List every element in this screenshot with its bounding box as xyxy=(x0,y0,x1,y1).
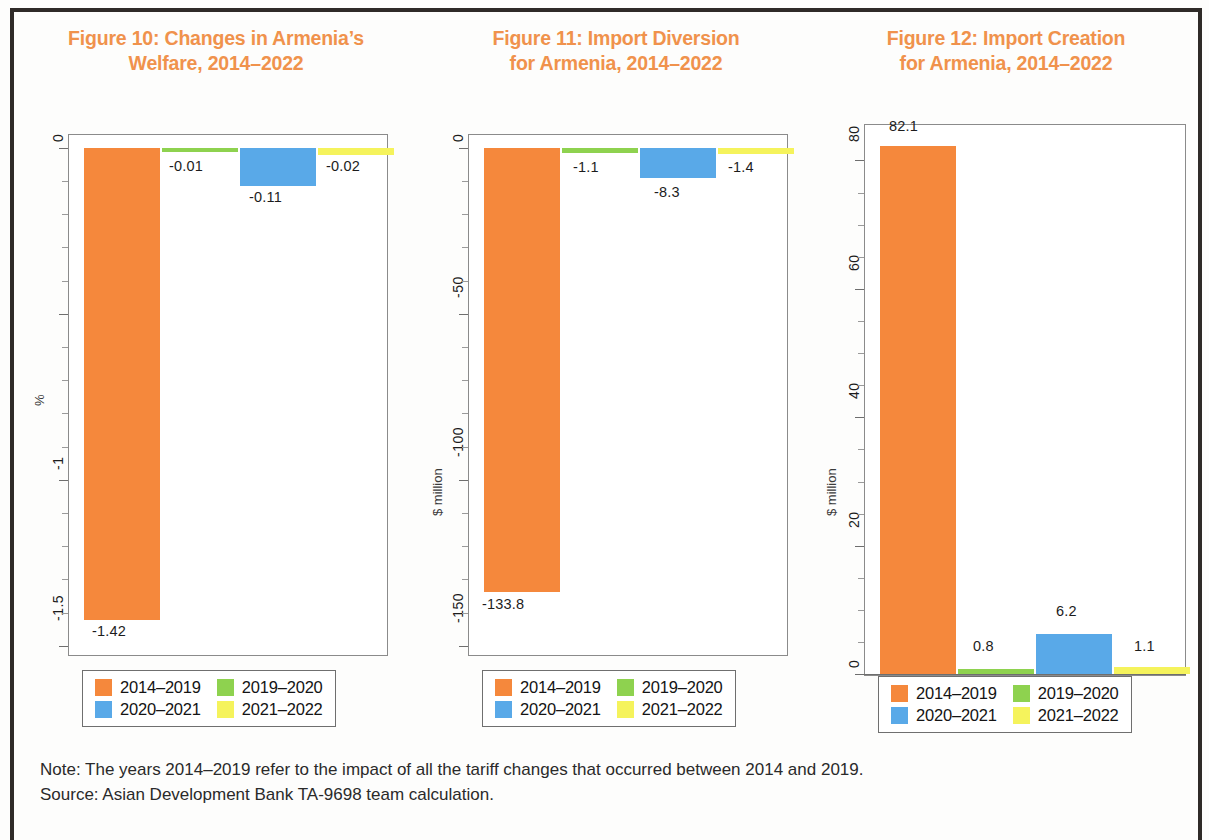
figure-page: Figure 10: Changes in Armenia’s Welfare,… xyxy=(0,0,1209,840)
figure-10-ytick-label-0: 0 xyxy=(50,134,66,142)
figure-panel-10: Figure 10: Changes in Armenia’s Welfare,… xyxy=(16,14,416,734)
legend-item-2019-2020: 2019–2020 xyxy=(1013,684,1119,703)
legend-swatch-icon-2021-2022 xyxy=(217,701,234,718)
legend-item-2014-2019: 2014–2019 xyxy=(95,678,201,697)
figure-11-ytick-minor xyxy=(462,214,468,215)
bar-2020-2021 xyxy=(240,148,316,186)
bar-2020-2021 xyxy=(1036,634,1112,674)
bar-value-2020-2021: -0.11 xyxy=(249,189,282,205)
figure-11-ytick-minor xyxy=(462,613,468,614)
legend-label-2014-2019: 2014–2019 xyxy=(916,684,997,703)
figure-12-ytick-minor xyxy=(858,578,864,579)
figure-10-ytick-minor xyxy=(62,380,68,381)
figure-11-ytick-minor xyxy=(462,247,468,248)
figure-12-ytick-minor xyxy=(858,321,864,322)
legend-swatch-icon-2020-2021 xyxy=(95,701,112,718)
bar-2019-2020 xyxy=(562,148,638,153)
legend-label-2014-2019: 2014–2019 xyxy=(520,678,601,697)
bar-2014-2019 xyxy=(84,148,160,620)
legend-item-2020-2021: 2020–2021 xyxy=(95,700,201,719)
figure-12-y-axis-title: $ million xyxy=(824,468,839,516)
bar-value-2014-2019: -133.8 xyxy=(482,596,524,612)
figure-11-y-axis-title: $ million xyxy=(430,468,445,516)
figure-12-ytick-minor xyxy=(858,225,864,226)
legend-item-2019-2020: 2019–2020 xyxy=(617,678,723,697)
bar-2021-2022 xyxy=(1114,667,1190,674)
legend-label-2019-2020: 2019–2020 xyxy=(1038,684,1119,703)
bar-value-2021-2022: -1.4 xyxy=(728,159,754,175)
figure-12-ytick-minor xyxy=(858,257,864,258)
figure-10-ytick-minor xyxy=(62,214,68,215)
figure-12-ytick-3 xyxy=(855,289,864,290)
figure-10-ytick-minor xyxy=(62,413,68,414)
legend-label-2021-2022: 2021–2022 xyxy=(1038,706,1119,725)
figure-10-ytick-1 xyxy=(59,314,68,315)
legend-label-2020-2021: 2020–2021 xyxy=(916,706,997,725)
legend-swatch-icon-2021-2022 xyxy=(1013,707,1030,724)
figure-10-ytick-0 xyxy=(59,148,68,149)
legend-swatch-icon-2019-2020 xyxy=(217,679,234,696)
legend-item-2021-2022: 2021–2022 xyxy=(217,700,323,719)
figure-11-ytick-label-1: -50 xyxy=(450,276,466,298)
figure-10-ytick-minor xyxy=(62,247,68,248)
legend-swatch-icon-2014-2019 xyxy=(95,679,112,696)
figure-source: Source: Asian Development Bank TA-9698 t… xyxy=(40,782,1160,807)
figure-10-y-axis-title: % xyxy=(32,394,47,406)
figure-11-ytick-minor xyxy=(462,380,468,381)
bar-2014-2019 xyxy=(484,148,560,592)
figure-11-legend: 2014–2019 2019–2020 2020–2021 2021–2022 xyxy=(482,670,736,727)
figure-panel-11: Figure 11: Import Diversion for Armenia,… xyxy=(416,14,816,734)
figure-10-ytick-2 xyxy=(59,480,68,481)
figure-12-ytick-minor xyxy=(858,385,864,386)
bar-value-2020-2021: -8.3 xyxy=(654,184,680,200)
legend-swatch-icon-2019-2020 xyxy=(1013,685,1030,702)
figure-note: Note: The years 2014–2019 refer to the i… xyxy=(40,757,1160,782)
figure-10-ytick-label-2: -1 xyxy=(50,457,66,470)
legend-label-2019-2020: 2019–2020 xyxy=(642,678,723,697)
figure-10-ytick-minor xyxy=(62,181,68,182)
bar-2019-2020 xyxy=(958,669,1034,674)
page-frame-top-rule xyxy=(10,8,1202,12)
figure-panels: Figure 10: Changes in Armenia’s Welfare,… xyxy=(16,14,1196,734)
bar-2020-2021 xyxy=(640,148,716,178)
figure-12-ytick-1 xyxy=(855,546,864,547)
legend-item-2020-2021: 2020–2021 xyxy=(495,700,601,719)
figure-12-title-line-2: for Armenia, 2014–2022 xyxy=(822,51,1190,76)
figure-12-ytick-minor xyxy=(858,193,864,194)
figure-12-ytick-minor xyxy=(858,449,864,450)
figure-10-legend: 2014–2019 2019–2020 2020–2021 2021–2022 xyxy=(82,670,336,727)
figure-12-ytick-minor xyxy=(858,610,864,611)
figure-10-ytick-minor xyxy=(62,347,68,348)
bar-2021-2022 xyxy=(318,148,394,155)
figure-11-ytick-3 xyxy=(459,646,468,647)
figure-12-ytick-4 xyxy=(855,160,864,161)
figure-10-ytick-minor xyxy=(62,513,68,514)
bar-2021-2022 xyxy=(718,148,794,154)
figure-panel-12: Figure 12: Import Creation for Armenia, … xyxy=(816,14,1196,734)
legend-label-2014-2019: 2014–2019 xyxy=(120,678,201,697)
figure-10-title-line-1: Figure 10: Changes in Armenia’s xyxy=(34,26,398,51)
bar-2019-2020 xyxy=(162,148,238,152)
bar-value-2019-2020: 0.8 xyxy=(973,638,994,654)
figure-10-ytick-label-3: -1.5 xyxy=(50,595,66,621)
page-frame-right-rule xyxy=(1198,8,1202,840)
figure-11-ytick-0 xyxy=(459,148,468,149)
figure-12-title: Figure 12: Import Creation for Armenia, … xyxy=(816,14,1196,76)
figure-11-ytick-1 xyxy=(459,314,468,315)
legend-item-2019-2020: 2019–2020 xyxy=(217,678,323,697)
figure-11-title: Figure 11: Import Diversion for Armenia,… xyxy=(416,14,816,76)
page-frame-left-rule xyxy=(10,8,14,840)
legend-label-2021-2022: 2021–2022 xyxy=(642,700,723,719)
legend-item-2014-2019: 2014–2019 xyxy=(891,684,997,703)
figure-10-ytick-minor xyxy=(62,546,68,547)
legend-swatch-icon-2014-2019 xyxy=(891,685,908,702)
figure-11-ytick-minor xyxy=(462,513,468,514)
figure-11-ytick-minor xyxy=(462,579,468,580)
legend-label-2019-2020: 2019–2020 xyxy=(242,678,323,697)
figure-12-ytick-2 xyxy=(855,417,864,418)
legend-swatch-icon-2020-2021 xyxy=(891,707,908,724)
figure-10-ytick-3 xyxy=(59,646,68,647)
figure-11-ytick-label-2: -100 xyxy=(450,427,466,457)
figure-12-ytick-minor xyxy=(858,642,864,643)
bar-value-2021-2022: 1.1 xyxy=(1134,638,1155,654)
